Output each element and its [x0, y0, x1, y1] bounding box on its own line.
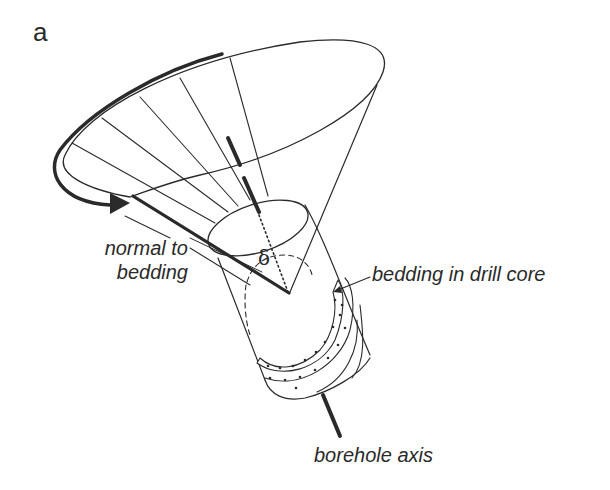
cone-ruling [102, 118, 228, 212]
bedding-band [257, 280, 343, 371]
bedding-in-drill-core-label: bedding in drill core [372, 262, 545, 286]
cone-ruling [180, 78, 250, 200]
borehole-axis-upper [228, 138, 240, 165]
bedding-leader [338, 277, 370, 290]
guide-line [125, 216, 170, 238]
cone-rim [63, 40, 384, 197]
normal-label-line1: normal to [92, 236, 188, 260]
borehole-axis-lower [323, 395, 340, 436]
normal-label-line2: bedding [92, 260, 188, 284]
borehole-axis-label: borehole axis [314, 443, 433, 467]
cone-ruling [72, 143, 215, 223]
rotation-arrow [54, 54, 222, 205]
hidden-bedding [247, 255, 312, 282]
cone-edge-right [290, 85, 377, 292]
core-bottom [265, 358, 370, 399]
normal-to-bedding-label: normal to bedding [92, 236, 188, 284]
hidden-bedding-left [245, 285, 250, 335]
borehole-bedding-diagram: a normal to bedding δ bedding in drill c… [0, 0, 610, 490]
panel-label: a [33, 17, 47, 48]
delta-angle-label: δ [258, 246, 270, 270]
